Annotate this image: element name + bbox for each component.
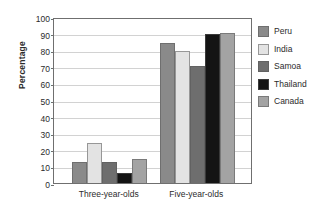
bar-chart-figure: Percentage 0102030405060708090100 PeruIn…	[0, 0, 335, 218]
y-axis-tick-label: 20	[41, 148, 50, 157]
legend-item: Thailand	[258, 79, 307, 90]
bar	[132, 159, 147, 183]
y-axis-tick-mark	[51, 151, 54, 152]
y-axis-tick-label: 0	[45, 181, 50, 190]
y-axis-tick-label: 80	[41, 48, 50, 57]
y-axis-tick-label: 40	[41, 114, 50, 123]
bar	[220, 33, 235, 183]
y-axis-tick-label: 70	[41, 65, 50, 74]
bar	[87, 143, 102, 183]
legend-swatch-icon	[258, 26, 269, 37]
bar	[160, 43, 175, 183]
y-axis-tick-label: 60	[41, 81, 50, 90]
bar	[175, 51, 190, 183]
legend-swatch-icon	[258, 61, 269, 72]
x-axis-tick-label: Five-year-olds	[169, 189, 223, 199]
y-axis-tick-mark	[51, 168, 54, 169]
bar-group	[72, 19, 147, 183]
bar	[190, 66, 205, 183]
legend-label: Peru	[274, 27, 292, 36]
y-axis-tick-mark	[51, 35, 54, 36]
y-axis-tick-mark	[51, 135, 54, 136]
legend-item: Peru	[258, 26, 307, 37]
legend-label: India	[274, 45, 292, 54]
y-axis-tick-label: 30	[41, 131, 50, 140]
bar	[205, 34, 220, 183]
y-axis-tick-mark	[51, 102, 54, 103]
bar-group	[160, 19, 235, 183]
bar	[117, 173, 132, 183]
y-axis-tick-mark	[51, 68, 54, 69]
legend-label: Samoa	[274, 62, 301, 71]
y-axis-tick-mark	[51, 118, 54, 119]
y-axis-tick-mark	[51, 19, 54, 20]
y-axis-tick-label: 100	[36, 15, 50, 24]
y-axis-title: Percentage	[17, 5, 27, 125]
y-axis-tick-label: 90	[41, 31, 50, 40]
legend-swatch-icon	[258, 44, 269, 55]
legend-item: India	[258, 44, 307, 55]
bar	[72, 162, 87, 183]
legend-swatch-icon	[258, 79, 269, 90]
plot-area: 0102030405060708090100	[53, 18, 252, 184]
chart-legend: PeruIndiaSamoaThailandCanada	[258, 26, 307, 107]
x-axis-tick-label: Three-year-olds	[79, 189, 139, 199]
legend-swatch-icon	[258, 96, 269, 107]
legend-label: Canada	[274, 97, 304, 106]
y-axis-tick-label: 50	[41, 98, 50, 107]
y-axis-tick-mark	[51, 52, 54, 53]
y-axis-tick-mark	[51, 85, 54, 86]
legend-item: Canada	[258, 96, 307, 107]
y-axis-tick-mark	[51, 185, 54, 186]
bar	[102, 162, 117, 183]
y-axis-tick-label: 10	[41, 164, 50, 173]
legend-label: Thailand	[274, 80, 307, 89]
legend-item: Samoa	[258, 61, 307, 72]
